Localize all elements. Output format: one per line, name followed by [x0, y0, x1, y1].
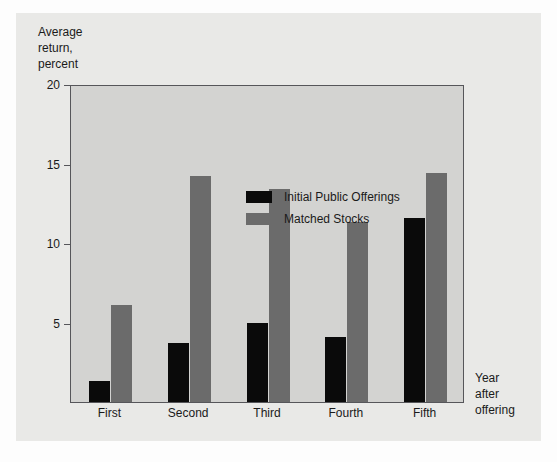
y-tick-mark: [64, 244, 71, 245]
x-tick-label-fifth: Fifth: [385, 406, 465, 420]
x-tick-label-second: Second: [148, 406, 228, 420]
y-tick-label: 5: [53, 317, 60, 331]
y-tick-label: 10: [47, 237, 60, 251]
bar-fifth-ipo: [404, 218, 425, 402]
x-tick-label-first: First: [69, 406, 149, 420]
y-tick-label: 15: [47, 158, 60, 172]
chart-legend: Initial Public Offerings Matched Stocks: [246, 186, 400, 230]
y-axis-title: Average return, percent: [38, 24, 82, 72]
y-tick-mark: [64, 165, 71, 166]
bar-first-matched: [111, 305, 132, 402]
y-tick-mark: [64, 85, 71, 86]
bar-third-ipo: [247, 323, 268, 403]
legend-swatch-icon-matched: [246, 213, 272, 225]
legend-swatch-icon-ipo: [246, 191, 272, 203]
chart-figure: Average return, percent Year after offer…: [0, 0, 557, 462]
y-tick-mark: [64, 324, 71, 325]
x-tick-label-fourth: Fourth: [306, 406, 386, 420]
plot-area: 2015105 Initial Public Offerings Matched…: [70, 85, 464, 403]
bar-fourth-ipo: [325, 337, 346, 402]
bar-fifth-matched: [426, 173, 447, 402]
bar-fourth-matched: [347, 222, 368, 402]
legend-label-matched: Matched Stocks: [284, 212, 369, 226]
x-tick-label-third: Third: [227, 406, 307, 420]
legend-label-ipo: Initial Public Offerings: [284, 190, 400, 204]
bar-second-ipo: [168, 343, 189, 402]
x-axis-title: Year after offering: [475, 370, 515, 418]
legend-item-ipo: Initial Public Offerings: [246, 186, 400, 208]
y-tick-label: 20: [47, 78, 60, 92]
bar-second-matched: [190, 176, 211, 402]
legend-item-matched: Matched Stocks: [246, 208, 400, 230]
bar-first-ipo: [89, 381, 110, 402]
